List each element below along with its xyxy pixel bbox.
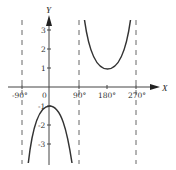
x-tick-label-180: 180°	[98, 91, 116, 100]
x-tick-label-neg90: -90°	[12, 91, 28, 100]
y-tick-label-1: 1	[41, 64, 46, 73]
chart-canvas: Y X -90° 0 90° 180° 270° 3 2 1 -1 -2 -3	[0, 0, 176, 170]
y-tick-label-neg2: -2	[38, 121, 46, 130]
x-axis-label: X	[161, 83, 168, 93]
y-tick-label-2: 2	[41, 45, 46, 54]
curve-branch-middle	[28, 106, 72, 163]
x-tick-label-90: 90°	[73, 91, 87, 100]
y-axis-label: Y	[46, 5, 52, 15]
y-tick-label-neg3: -3	[38, 140, 46, 149]
y-tick-label-3: 3	[41, 26, 46, 35]
x-tick-label-270: 270°	[128, 91, 146, 100]
x-axis-arrow-icon	[150, 84, 160, 90]
y-axis-arrow-icon	[46, 15, 52, 26]
curve-branch-upper	[85, 20, 131, 69]
y-tick-label-neg1: -1	[38, 102, 45, 111]
secant-graph: Y X -90° 0 90° 180° 270° 3 2 1 -1 -2 -3	[0, 0, 176, 170]
x-tick-label-0: 0	[42, 91, 47, 100]
